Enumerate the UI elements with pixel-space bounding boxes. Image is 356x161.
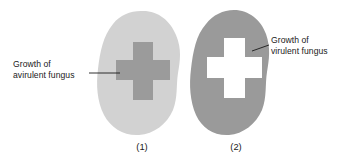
callout-avirulent-line2: avirulent fungus <box>13 70 74 81</box>
panel-2-graphic <box>190 10 269 135</box>
figure-container: Growth of avirulent fungus Growth of vir… <box>0 0 356 161</box>
callout-virulent-line1: Growth of <box>271 35 309 45</box>
panel-caption-1: (1) <box>122 141 162 152</box>
panel-caption-2: (2) <box>216 141 256 152</box>
callout-avirulent-line1: Growth of <box>13 59 51 69</box>
callout-avirulent: Growth of avirulent fungus <box>13 59 74 82</box>
callout-virulent: Growth of virulent fungus <box>271 35 328 58</box>
callout-virulent-line2: virulent fungus <box>271 46 328 57</box>
